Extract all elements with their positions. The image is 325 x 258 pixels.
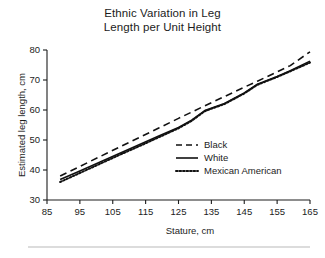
- y-axis-title: Estimated leg length, cm: [16, 73, 27, 177]
- x-axis-title: Stature, cm: [166, 225, 215, 236]
- x-tick-label: 125: [171, 206, 187, 217]
- x-tick-label: 105: [105, 206, 121, 217]
- axes: [47, 50, 310, 200]
- x-tick-label: 85: [42, 206, 53, 217]
- y-axis-ticks: 304050607080: [29, 44, 47, 205]
- y-tick-label: 50: [29, 134, 40, 145]
- x-tick-label: 135: [203, 206, 219, 217]
- series-line-mexican-american: [60, 63, 310, 182]
- data-series: [60, 52, 310, 182]
- legend-label-mexican-american: Mexican American: [204, 165, 282, 176]
- legend-label-black: Black: [204, 139, 227, 150]
- x-tick-label: 115: [138, 206, 153, 217]
- y-tick-label: 30: [29, 194, 40, 205]
- chart-legend: BlackWhiteMexican American: [176, 139, 282, 176]
- y-tick-label: 60: [29, 104, 40, 115]
- x-tick-label: 165: [302, 206, 318, 217]
- y-tick-label: 80: [29, 44, 40, 55]
- legend-label-white: White: [204, 152, 228, 163]
- x-axis-ticks: 8595105115125135145155165: [42, 200, 318, 217]
- figure-container: Ethnic Variation in Leg Length per Unit …: [0, 0, 325, 258]
- line-chart-plot: 304050607080 8595105115125135145155165 E…: [0, 0, 325, 258]
- x-tick-label: 155: [269, 206, 285, 217]
- x-tick-label: 95: [75, 206, 86, 217]
- y-tick-label: 40: [29, 164, 40, 175]
- y-tick-label: 70: [29, 74, 40, 85]
- x-tick-label: 145: [236, 206, 252, 217]
